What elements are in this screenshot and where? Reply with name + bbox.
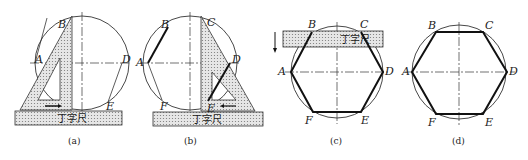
panel-a: 丁字尺 B A D E (a): [15, 12, 131, 146]
point-label-b: B: [160, 18, 169, 31]
point-label-d: D: [121, 53, 131, 66]
point-label-a: A: [135, 56, 144, 69]
set-square: [201, 16, 255, 111]
panel-c: 丁字尺 B C A D F E (c): [273, 18, 394, 146]
point-label-e: E: [105, 100, 114, 113]
caption-d: (d): [452, 136, 465, 146]
hexagon-construction-diagram: 丁字尺 B A D E (a) 丁字尺 B C A D F E (b) 丁字尺: [0, 0, 528, 160]
point-label-d: D: [231, 53, 241, 66]
point-label-f: F: [427, 116, 436, 129]
caption-c: (c): [330, 136, 342, 146]
point-label-c: C: [485, 19, 494, 32]
point-label-a: A: [277, 65, 286, 78]
point-label-b: B: [57, 18, 66, 31]
point-label-e: E: [484, 116, 493, 129]
hexagon-edge-ab: [148, 27, 168, 63]
panel-d: B C A D F E (d): [401, 19, 518, 146]
t-square-label: 丁字尺: [57, 112, 87, 124]
caption-b: (b): [184, 136, 197, 146]
point-label-a: A: [401, 65, 410, 78]
point-label-b: B: [307, 18, 316, 31]
panel-b: 丁字尺 B C A D F E (b): [135, 12, 263, 146]
caption-a: (a): [68, 136, 80, 146]
point-label-e: E: [206, 102, 215, 115]
point-label-d: D: [508, 65, 518, 78]
point-label-d: D: [384, 65, 394, 78]
hexagon: [412, 32, 507, 114]
point-label-a: A: [34, 53, 43, 66]
point-label-f: F: [304, 114, 313, 127]
arrow-head-icon: [273, 48, 277, 53]
point-label-e: E: [360, 114, 369, 127]
point-label-c: C: [360, 18, 369, 31]
point-label-b: B: [427, 19, 436, 32]
point-label-c: C: [207, 16, 216, 29]
point-label-f: F: [159, 100, 168, 113]
